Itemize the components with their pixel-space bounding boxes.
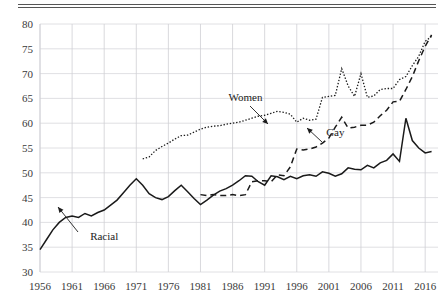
x-axis-tick-label: 1981 — [189, 280, 211, 292]
x-axis-tick-label: 1956 — [29, 280, 52, 292]
y-axis-tick-label: 70 — [22, 68, 34, 80]
x-axis-tick-label: 1966 — [93, 280, 116, 292]
annotation-label-gay: Gay — [326, 126, 345, 138]
annotation-label-women: Women — [228, 91, 262, 103]
x-axis-tick-label: 1971 — [125, 280, 147, 292]
chart-canvas: 3035404550556065707580195619611966197119… — [0, 0, 442, 306]
y-axis-tick-label: 30 — [22, 266, 34, 278]
y-axis-tick-label: 50 — [22, 167, 34, 179]
x-axis-tick-label: 2016 — [414, 280, 437, 292]
series-line-gay — [200, 35, 431, 196]
y-axis-tick-label: 45 — [22, 192, 34, 204]
y-axis-tick-label: 35 — [22, 241, 34, 253]
x-axis-tick-label: 2011 — [382, 280, 404, 292]
y-axis-tick-label: 40 — [22, 216, 34, 228]
y-axis-tick-label: 75 — [22, 43, 34, 55]
x-axis-tick-label: 2006 — [350, 280, 373, 292]
y-axis-tick-label: 80 — [22, 18, 34, 30]
annotation-arrowhead-racial — [58, 207, 63, 213]
series-line-women — [143, 36, 432, 159]
annotation-label-racial: Racial — [90, 230, 118, 242]
x-axis-tick-label: 1976 — [157, 280, 180, 292]
y-axis-tick-label: 55 — [22, 142, 34, 154]
x-axis-tick-label: 1986 — [222, 280, 245, 292]
y-axis-tick-label: 65 — [22, 92, 34, 104]
x-axis-tick-label: 2001 — [318, 280, 340, 292]
x-axis-tick-label: 1961 — [61, 280, 83, 292]
x-axis-tick-label: 1991 — [254, 280, 276, 292]
y-axis-tick-label: 60 — [22, 117, 34, 129]
line-chart: 3035404550556065707580195619611966197119… — [0, 0, 442, 306]
x-axis-tick-label: 1996 — [286, 280, 309, 292]
